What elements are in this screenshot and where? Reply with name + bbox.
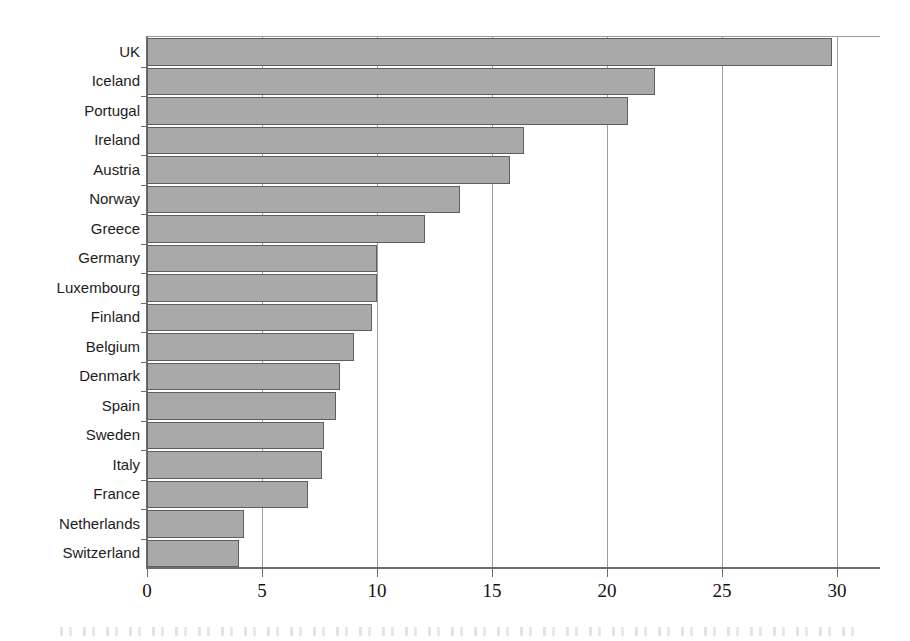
page-scan-artifact bbox=[60, 627, 860, 636]
x-tick-5 bbox=[262, 568, 263, 577]
bar-row bbox=[147, 67, 880, 97]
bar-row bbox=[147, 126, 880, 156]
bar bbox=[147, 422, 324, 450]
category-label: Spain bbox=[0, 397, 140, 414]
bar bbox=[147, 510, 244, 538]
bar-row bbox=[147, 332, 880, 362]
category-label: Iceland bbox=[0, 72, 140, 89]
category-label: Belgium bbox=[0, 338, 140, 355]
category-label: Ireland bbox=[0, 131, 140, 148]
bar bbox=[147, 481, 308, 509]
x-tick-label: 5 bbox=[232, 580, 292, 602]
bar-row bbox=[147, 391, 880, 421]
bar-row bbox=[147, 421, 880, 451]
bar-row bbox=[147, 244, 880, 274]
bar-row bbox=[147, 37, 880, 67]
bar bbox=[147, 363, 340, 391]
category-label: UK bbox=[0, 43, 140, 60]
bar bbox=[147, 215, 425, 243]
x-axis-line bbox=[146, 567, 880, 569]
bar-row bbox=[147, 155, 880, 185]
x-tick-label: 30 bbox=[807, 580, 867, 602]
x-tick-0 bbox=[147, 568, 148, 577]
x-tick-20 bbox=[607, 568, 608, 577]
x-tick-25 bbox=[722, 568, 723, 577]
bar-row bbox=[147, 539, 880, 569]
category-label: Netherlands bbox=[0, 515, 140, 532]
plot-area bbox=[147, 37, 880, 568]
bar-row bbox=[147, 273, 880, 303]
x-tick-label: 25 bbox=[692, 580, 752, 602]
bar bbox=[147, 68, 655, 96]
x-tick-label: 0 bbox=[117, 580, 177, 602]
bar bbox=[147, 127, 524, 155]
category-label: Denmark bbox=[0, 367, 140, 384]
category-label: France bbox=[0, 485, 140, 502]
category-label: Luxembourg bbox=[0, 279, 140, 296]
bar bbox=[147, 97, 628, 125]
category-label: Sweden bbox=[0, 426, 140, 443]
category-label: Portugal bbox=[0, 102, 140, 119]
bar-row bbox=[147, 362, 880, 392]
bar bbox=[147, 274, 377, 302]
bar bbox=[147, 540, 239, 568]
x-tick-30 bbox=[837, 568, 838, 577]
bar-row bbox=[147, 480, 880, 510]
bar bbox=[147, 392, 336, 420]
bar bbox=[147, 156, 510, 184]
bar bbox=[147, 245, 377, 273]
bar bbox=[147, 38, 832, 66]
category-label: Greece bbox=[0, 220, 140, 237]
bar bbox=[147, 304, 372, 332]
category-label: Finland bbox=[0, 308, 140, 325]
category-label: Switzerland bbox=[0, 544, 140, 561]
category-label: Norway bbox=[0, 190, 140, 207]
bar-row bbox=[147, 96, 880, 126]
bar-row bbox=[147, 214, 880, 244]
x-tick-label: 10 bbox=[347, 580, 407, 602]
category-label: Italy bbox=[0, 456, 140, 473]
bar-row bbox=[147, 450, 880, 480]
bar bbox=[147, 451, 322, 479]
bar-row bbox=[147, 303, 880, 333]
bar-chart: UKIcelandPortugalIrelandAustriaNorwayGre… bbox=[0, 0, 910, 641]
x-tick-label: 15 bbox=[462, 580, 522, 602]
bar-row bbox=[147, 185, 880, 215]
x-tick-label: 20 bbox=[577, 580, 637, 602]
category-label: Germany bbox=[0, 249, 140, 266]
bar bbox=[147, 333, 354, 361]
x-tick-15 bbox=[492, 568, 493, 577]
x-tick-10 bbox=[377, 568, 378, 577]
category-label: Austria bbox=[0, 161, 140, 178]
bar-row bbox=[147, 509, 880, 539]
bar bbox=[147, 186, 460, 214]
